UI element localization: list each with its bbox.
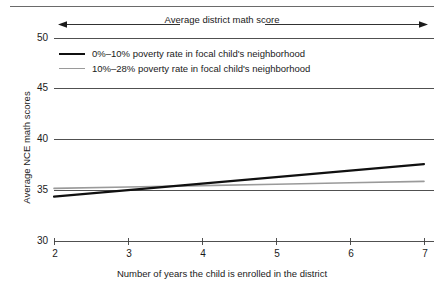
xtick-label-5: 5 — [267, 249, 287, 259]
x-axis — [54, 238, 434, 245]
xtick-label-7: 7 — [415, 249, 435, 259]
ytick-label-30: 30 — [22, 236, 48, 246]
annotation-arrow — [58, 21, 428, 28]
xtick-label-2: 2 — [45, 249, 65, 259]
x-axis-title: Number of years the child is enrolled in… — [0, 268, 444, 279]
legend-item-10-28-poverty: 10%–28% poverty rate in focal child's ne… — [59, 61, 389, 76]
xtick-label-3: 3 — [119, 249, 139, 259]
xtick-label-4: 4 — [193, 249, 213, 259]
legend-label-10-28-poverty: 10%–28% poverty rate in focal child's ne… — [92, 62, 310, 75]
legend-swatch-gray-line-icon — [59, 68, 85, 69]
series-line-10-28-poverty — [54, 181, 424, 188]
ytick-label-50: 50 — [22, 33, 48, 43]
arrow-head-right — [419, 21, 428, 28]
plot-svg — [0, 0, 444, 293]
series-line-0-10-poverty — [54, 164, 424, 197]
legend-swatch-dark-line-icon — [59, 53, 85, 55]
legend-item-0-10-poverty: 0%–10% poverty rate in focal child's nei… — [59, 46, 389, 61]
figure-container: Average district math score — [0, 0, 444, 293]
legend-label-0-10-poverty: 0%–10% poverty rate in focal child's nei… — [92, 47, 305, 60]
y-axis-title: Average NCE math scores — [21, 68, 32, 228]
xtick-label-6: 6 — [341, 249, 361, 259]
arrow-head-left — [58, 21, 67, 28]
legend: 0%–10% poverty rate in focal child's nei… — [59, 46, 389, 76]
